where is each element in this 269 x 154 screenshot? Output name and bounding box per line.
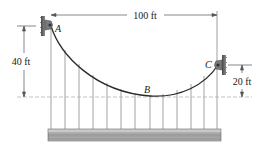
wall-c-icon bbox=[222, 55, 226, 75]
point-b-label: B bbox=[144, 84, 150, 95]
pin-c-icon bbox=[216, 63, 219, 66]
height-c-label: 20 ft bbox=[233, 76, 252, 87]
pin-a-icon bbox=[48, 23, 51, 26]
wall-a-icon bbox=[41, 16, 45, 36]
deck bbox=[48, 129, 221, 141]
cable-diagram: 100 ft 40 ft 20 ft A bbox=[0, 0, 269, 154]
point-c-label: C bbox=[205, 59, 212, 70]
span-label: 100 ft bbox=[133, 10, 157, 21]
hangers bbox=[51, 27, 217, 129]
support-c bbox=[215, 55, 228, 75]
cable bbox=[51, 26, 218, 96]
point-a-label: A bbox=[54, 23, 62, 34]
height-a-label: 40 ft bbox=[12, 56, 31, 67]
